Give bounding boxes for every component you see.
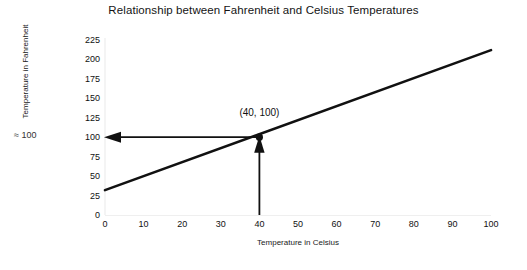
axis-lines: [105, 38, 491, 216]
highlighted-point-marker: [256, 134, 263, 141]
horizontal-guide-arrow-head: [104, 132, 121, 143]
conversion-line: [105, 50, 491, 190]
x-axis-tick-label: 0: [85, 219, 125, 229]
guide-arrows: [104, 132, 265, 215]
x-axis-tick-label: 30: [201, 219, 241, 229]
x-axis-tick-label: 10: [124, 219, 164, 229]
x-axis-tick-label: 50: [278, 219, 318, 229]
x-axis-tick-label: 70: [355, 219, 395, 229]
chart-figure: Relationship between Fahrenheit and Cels…: [0, 0, 527, 270]
data-series-line: [105, 50, 491, 190]
x-axis-tick-label: 100: [471, 219, 511, 229]
x-axis-tick-label: 20: [162, 219, 202, 229]
x-axis-tick-label: 90: [432, 219, 472, 229]
x-axis-tick-label: 40: [239, 219, 279, 229]
x-axis-tick-label: 80: [394, 219, 434, 229]
plot-area: [0, 0, 527, 270]
x-axis-tick-label: 60: [317, 219, 357, 229]
